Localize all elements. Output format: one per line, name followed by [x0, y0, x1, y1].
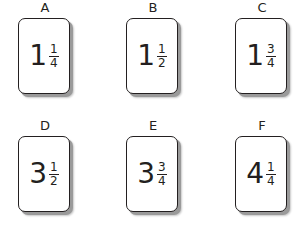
fraction: 3 4	[157, 162, 167, 187]
card-face: 1 1 2	[126, 18, 178, 94]
numerator: 1	[266, 162, 276, 175]
denominator: 4	[158, 175, 166, 187]
whole-number: 3	[137, 160, 155, 188]
card-label: F	[235, 119, 289, 132]
denominator: 4	[267, 175, 275, 187]
mixed-number: 1 1 4	[29, 42, 58, 70]
whole-number: 1	[137, 42, 155, 70]
card-label: E	[126, 119, 180, 132]
mixed-number: 1 1 2	[137, 42, 166, 70]
fraction: 1 4	[49, 44, 59, 69]
card-label: B	[126, 1, 180, 14]
fraction: 1 4	[266, 162, 276, 187]
fraction: 1 2	[157, 44, 167, 69]
card-face: 1 1 4	[18, 18, 70, 94]
card-label: A	[18, 1, 72, 14]
whole-number: 3	[29, 160, 47, 188]
numerator: 3	[266, 44, 276, 57]
fraction: 3 4	[266, 44, 276, 69]
numerator: 1	[49, 162, 59, 175]
whole-number: 1	[246, 42, 264, 70]
card-label: D	[18, 119, 72, 132]
mixed-number: 4 1 4	[246, 160, 275, 188]
denominator: 2	[158, 57, 166, 69]
denominator: 4	[50, 57, 58, 69]
card-face: 3 3 4	[126, 136, 178, 212]
whole-number: 4	[246, 160, 264, 188]
card-face: 3 1 2	[18, 136, 70, 212]
mixed-number: 1 3 4	[246, 42, 275, 70]
card-face: 4 1 4	[235, 136, 287, 212]
fraction: 1 2	[49, 162, 59, 187]
mixed-number: 3 1 2	[29, 160, 58, 188]
denominator: 2	[50, 175, 58, 187]
card-face: 1 3 4	[235, 18, 287, 94]
denominator: 4	[267, 57, 275, 69]
card-label: C	[235, 1, 289, 14]
mixed-number: 3 3 4	[137, 160, 166, 188]
numerator: 1	[49, 44, 59, 57]
whole-number: 1	[29, 42, 47, 70]
numerator: 1	[157, 44, 167, 57]
numerator: 3	[157, 162, 167, 175]
